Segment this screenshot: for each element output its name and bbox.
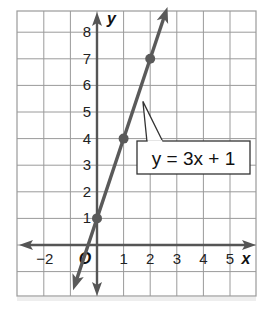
y-tick-label: 5 — [83, 103, 91, 120]
x-axis-label: x — [241, 250, 252, 267]
y-tick-label: 2 — [83, 183, 91, 200]
grid-shadow — [17, 297, 256, 301]
x-tick-label: 5 — [226, 250, 234, 267]
y-tick-label: 7 — [83, 50, 91, 67]
equation-label: y = 3x + 1 — [152, 148, 235, 169]
data-point — [145, 54, 155, 64]
data-point — [92, 213, 102, 223]
y-tick-label: 1 — [83, 209, 91, 226]
x-tick-label: 3 — [173, 250, 181, 267]
data-point — [119, 134, 129, 144]
y-tick-label: 3 — [83, 156, 91, 173]
y-tick-label: 6 — [83, 76, 91, 93]
y-tick-label: 8 — [83, 23, 91, 40]
x-tick-label: 1 — [119, 250, 127, 267]
coordinate-plane: −21234512345678xyO y = 3x + 1 — [0, 0, 266, 321]
x-tick-label: 4 — [199, 250, 207, 267]
y-axis-label: y — [106, 10, 117, 27]
y-tick-label: 4 — [83, 130, 91, 147]
x-tick-label: −2 — [36, 250, 53, 267]
callout-pointer — [143, 101, 163, 142]
x-tick-label: 2 — [146, 250, 154, 267]
